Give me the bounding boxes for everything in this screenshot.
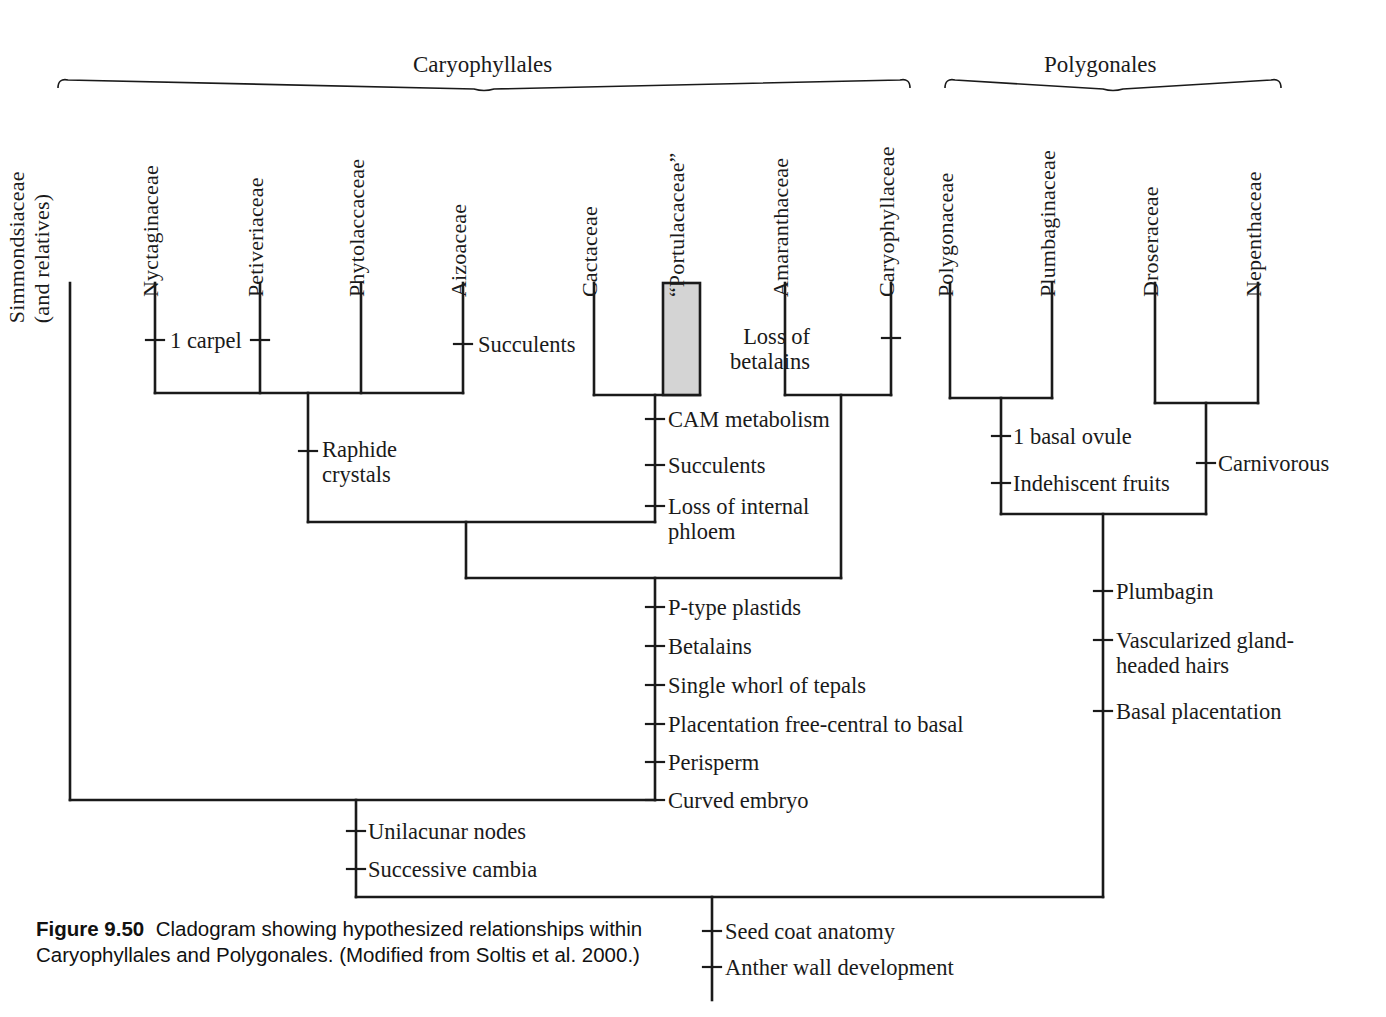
taxon-label-phytolaccaceae: Phytolaccaceae — [345, 159, 368, 297]
taxon-label-cactaceae: Cactaceae — [578, 206, 601, 297]
character-label-ch-p-type: P-type plastids — [668, 595, 801, 620]
character-label-ch-curved-embryo: Curved embryo — [668, 788, 809, 813]
character-label-ch-single-whorl: Single whorl of tepals — [668, 673, 866, 698]
figure-number: Figure 9.50 — [36, 917, 144, 940]
clade-title-polygonales: Polygonales — [1044, 52, 1156, 78]
character-label-ch-plumbagin: Plumbagin — [1116, 579, 1214, 604]
character-label-ch-loss-betalains: Loss of betalains — [0, 324, 810, 374]
character-label-ch-carnivorous: Carnivorous — [1218, 451, 1329, 476]
clade-bracket-layer — [58, 80, 1281, 91]
character-label-ch-seed-coat: Seed coat anatomy — [725, 919, 895, 944]
cladogram-figure: Simmondsiaceae(and relatives)Nyctaginace… — [0, 0, 1386, 1017]
taxon-label-aizoaceae: Aizoaceae — [447, 204, 470, 297]
character-label-ch-basal-plac: Basal placentation — [1116, 699, 1282, 724]
character-label-ch-perisperm: Perisperm — [668, 750, 759, 775]
taxon-label-caryophyllaceae: Caryophyllaceae — [875, 146, 898, 297]
taxon-label-nepenthaceae: Nepenthaceae — [1242, 171, 1265, 297]
character-label-ch-cam: CAM metabolism — [668, 407, 830, 432]
taxon-label-droseraceae: Droseraceae — [1139, 186, 1162, 297]
taxon-label-petiveriaceae: Petiveriaceae — [244, 177, 267, 297]
taxon-label-simmondsiaceae-line1: Simmondsiaceae — [5, 171, 30, 323]
character-label-ch-unilacunar: Unilacunar nodes — [368, 819, 526, 844]
taxon-label-portulacaceae: “Portulacaceae” — [665, 152, 688, 297]
character-label-ch-placentation: Placentation free-central to basal — [668, 712, 963, 737]
clade-bracket-caryophyllales — [58, 80, 910, 91]
clade-title-caryophyllales: Caryophyllales — [413, 52, 552, 78]
taxon-label-amaranthaceae: Amaranthaceae — [769, 158, 792, 297]
character-label-ch-loss-phloem: Loss of internal phloem — [668, 494, 809, 544]
taxon-label-simmondsiaceae-line2: (and relatives) — [29, 171, 54, 323]
character-label-ch-betalains: Betalains — [668, 634, 752, 659]
character-label-ch-indehiscent: Indehiscent fruits — [1013, 471, 1170, 496]
character-label-ch-raphide: Raphide crystals — [322, 437, 397, 487]
taxon-label-simmondsiaceae: Simmondsiaceae(and relatives) — [5, 171, 54, 323]
character-label-ch-succ-cambia: Successive cambia — [368, 857, 537, 882]
character-label-ch-anther-wall: Anther wall development — [725, 955, 954, 980]
character-label-ch-1-basal-ovule: 1 basal ovule — [1013, 424, 1132, 449]
taxon-label-nyctaginaceae: Nyctaginaceae — [139, 165, 162, 297]
character-label-ch-succulents-cam: Succulents — [668, 453, 765, 478]
taxon-label-plumbaginaceae: Plumbaginaceae — [1036, 150, 1059, 297]
taxon-label-polygonaceae: Polygonaceae — [934, 173, 957, 298]
clade-bracket-polygonales — [945, 80, 1281, 91]
figure-caption: Figure 9.50 Cladogram showing hypothesiz… — [36, 916, 686, 968]
character-label-ch-vascularized: Vascularized gland- headed hairs — [1116, 628, 1294, 678]
